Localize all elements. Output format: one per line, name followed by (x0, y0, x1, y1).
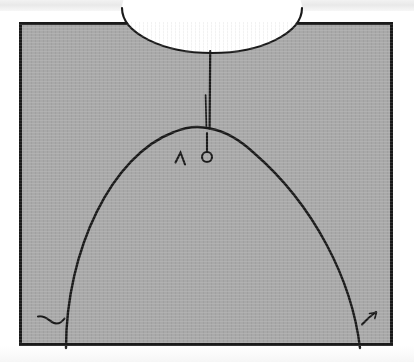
figure-root (0, 0, 414, 362)
panel-fill (21, 24, 392, 345)
pattern-figure (0, 0, 414, 362)
panel-group (21, 24, 392, 345)
seam-guide-line (206, 95, 207, 128)
center-seam (210, 51, 211, 129)
